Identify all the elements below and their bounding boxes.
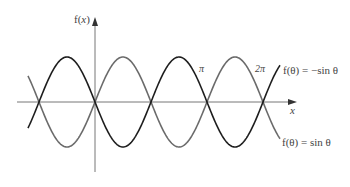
y-axis-arrow-icon — [92, 17, 98, 26]
sine-chart: f(x) x π 2π f(θ) = −sin θ f(θ) = sin θ — [0, 0, 350, 187]
y-axis-label-close: ) — [86, 13, 90, 25]
x-axis-label: x — [290, 105, 295, 116]
y-axis-label: f(x) — [74, 14, 90, 25]
neg-sin-legend-label: f(θ) = −sin θ — [283, 65, 338, 76]
two-pi-annotation: 2π — [255, 64, 265, 74]
plot-area — [0, 0, 350, 187]
sin-legend-label: f(θ) = sin θ — [282, 137, 331, 148]
pi-annotation: π — [199, 64, 204, 74]
